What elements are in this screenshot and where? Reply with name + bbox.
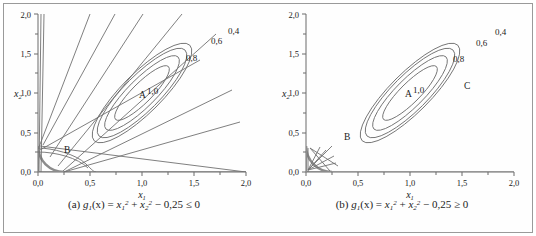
region-label-b-A: A (405, 89, 412, 99)
caption-b-arg: (x) = (360, 198, 382, 210)
caption-a-prefix: (a) (68, 198, 80, 210)
caption-b-prefix: (b) (336, 198, 349, 210)
ytick-labels-a: 0,0 0,5 1,0 1,5 2,0 (20, 10, 31, 177)
contour-label-a-06: 0,6 (211, 36, 223, 46)
svg-text:2,0: 2,0 (20, 10, 31, 20)
svg-text:1,0: 1,0 (405, 178, 416, 188)
svg-text:1,5: 1,5 (189, 178, 200, 188)
caption-a-fn: g1 (83, 198, 92, 210)
svg-text:0,5: 0,5 (20, 128, 31, 138)
region-label-a-A: A (139, 90, 146, 100)
contour-label-b-06: 0,6 (476, 38, 488, 48)
figure-container: 0,0 0,5 1,0 1,5 2,0 0,0 0,5 1,0 1,5 2,0 … (0, 0, 536, 236)
svg-text:1,0: 1,0 (137, 178, 148, 188)
caption-a-arg: (x) = (92, 198, 114, 210)
region-label-a-B: B (64, 145, 70, 155)
gradient-lines-b (308, 146, 338, 172)
svg-text:0,0: 0,0 (20, 167, 31, 177)
region-label-b-C: C (464, 81, 470, 91)
svg-text:0,0: 0,0 (33, 178, 44, 188)
svg-text:1,5: 1,5 (288, 49, 299, 59)
contour-label-b-08: 0,8 (453, 54, 465, 64)
svg-text:2,0: 2,0 (241, 178, 252, 188)
panel-b: 0,0 0,5 1,0 1,5 2,0 0,0 0,5 1,0 1,5 2,0 … (268, 0, 536, 236)
svg-text:0,0: 0,0 (288, 167, 299, 177)
svg-text:1,5: 1,5 (20, 49, 31, 59)
svg-text:0,5: 0,5 (353, 178, 364, 188)
xtick-labels-b: 0,0 0,5 1,0 1,5 2,0 (301, 178, 520, 188)
svg-text:0,5: 0,5 (85, 178, 96, 188)
panel-a: 0,0 0,5 1,0 1,5 2,0 0,0 0,5 1,0 1,5 2,0 … (0, 0, 268, 236)
contour-label-b-1: 1,0 (413, 85, 425, 95)
caption-b-fn: g1 (351, 198, 360, 210)
contour-label-a-04: 0,4 (228, 26, 240, 36)
svg-text:1,5: 1,5 (457, 178, 468, 188)
svg-text:0,0: 0,0 (301, 178, 312, 188)
caption-b: (b) g1(x) = x12 + x22 − 0,25 ≥ 0 (268, 198, 536, 212)
contour-label-a-1: 1,0 (147, 86, 159, 96)
svg-text:1,0: 1,0 (20, 88, 31, 98)
constraint-arc-a (38, 146, 64, 172)
svg-text:2,0: 2,0 (509, 178, 520, 188)
svg-text:1,0: 1,0 (288, 88, 299, 98)
contour-label-a-08: 0,8 (186, 53, 198, 63)
ytick-labels-b: 0,0 0,5 1,0 1,5 2,0 (288, 10, 299, 177)
xtick-labels-a: 0,0 0,5 1,0 1,5 2,0 (33, 178, 252, 188)
caption-a: (a) g1(x) = x12 + x22 − 0,25 ≤ 0 (0, 198, 268, 212)
labels-a: A 1,0 B 0,8 0,6 0,4 (64, 26, 240, 155)
labels-b: A 1,0 B C 0,8 0,6 0,4 (344, 27, 507, 142)
contour-label-b-04: 0,4 (495, 27, 507, 37)
svg-text:0,5: 0,5 (288, 128, 299, 138)
region-label-b-B: B (344, 132, 350, 142)
svg-text:2,0: 2,0 (288, 10, 299, 20)
